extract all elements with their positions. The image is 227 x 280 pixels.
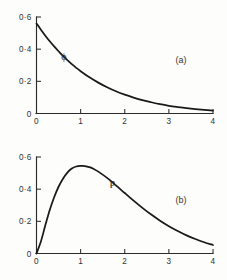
x-tick-label-a-2: 2 — [122, 117, 127, 126]
x-tick-label-b-1: 1 — [78, 257, 83, 266]
plot-a-axes — [36, 17, 213, 114]
y-tick-label-b-1: 0·2 — [19, 217, 32, 226]
x-tick-label-b-0: 0 — [34, 257, 39, 266]
y-tick-label-a-3: 0·6 — [19, 13, 32, 22]
plot-b-svg: 0123400·20·40·6 P (b) — [0, 140, 227, 280]
y-tick-label-a-2: 0·4 — [19, 45, 32, 54]
figure-container: 0123400·20·40·6 ϕ (a) 0123400·20·40·6 P … — [0, 0, 227, 280]
y-tick-label-b-3: 0·6 — [19, 153, 32, 162]
x-tick-label-a-3: 3 — [166, 117, 171, 126]
x-tick-label-a-4: 4 — [211, 117, 216, 126]
plot-b-tick-labels: 0123400·20·40·6 — [19, 153, 216, 266]
plot-b-axes — [36, 157, 213, 254]
x-tick-label-a-1: 1 — [78, 117, 83, 126]
x-tick-label-b-2: 2 — [122, 257, 127, 266]
panel-label-a: (a) — [176, 55, 187, 65]
plot-a-svg: 0123400·20·40·6 ϕ (a) — [0, 0, 227, 140]
chart-panel-b: 0123400·20·40·6 P (b) — [0, 140, 227, 280]
panel-label-b: (b) — [176, 195, 187, 205]
y-tick-label-b-0: 0 — [27, 250, 32, 259]
chart-panel-a: 0123400·20·40·6 ϕ (a) — [0, 0, 227, 140]
curve-label-p: P — [110, 179, 116, 190]
curve-phi — [37, 23, 214, 110]
plot-a-ticks — [37, 17, 214, 114]
y-tick-label-b-2: 0·4 — [19, 185, 32, 194]
curve-label-phi: ϕ — [61, 51, 66, 62]
x-tick-label-b-4: 4 — [211, 257, 216, 266]
plot-b-ticks — [37, 157, 214, 254]
x-tick-label-b-3: 3 — [166, 257, 171, 266]
curve-p — [37, 166, 214, 254]
x-tick-label-a-0: 0 — [34, 117, 39, 126]
y-tick-label-a-1: 0·2 — [19, 77, 32, 86]
y-tick-label-a-0: 0 — [27, 110, 32, 119]
